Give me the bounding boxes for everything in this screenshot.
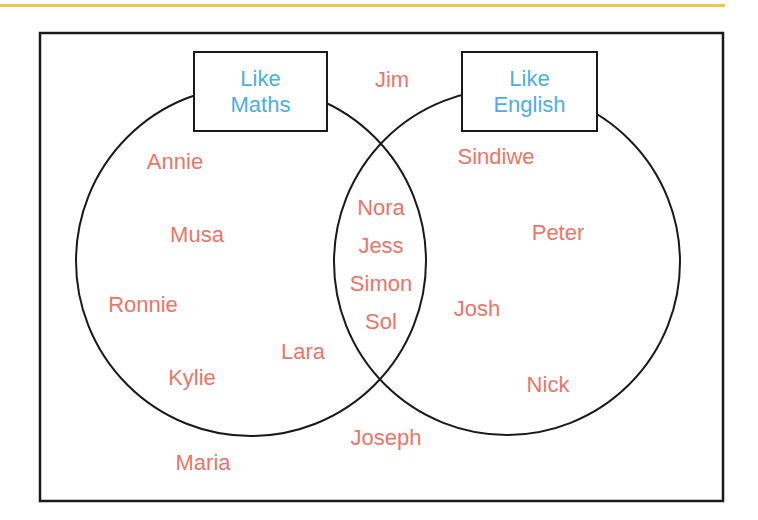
name-both: Nora bbox=[357, 196, 405, 220]
english-set-label: Like English bbox=[461, 51, 598, 132]
name-english-only: Peter bbox=[532, 221, 585, 245]
name-maths-only: Kylie bbox=[168, 366, 216, 390]
name-maths-only: Ronnie bbox=[108, 293, 178, 317]
name-both: Jess bbox=[358, 234, 403, 258]
maths-set-label: Like Maths bbox=[193, 51, 328, 132]
name-neither: Joseph bbox=[351, 426, 422, 450]
name-maths-only: Annie bbox=[147, 150, 203, 174]
english-circle bbox=[334, 89, 680, 435]
english-label-line2: English bbox=[493, 92, 565, 118]
maths-circle bbox=[76, 86, 426, 436]
name-maths-only: Musa bbox=[170, 223, 224, 247]
name-maths-only: Lara bbox=[281, 340, 325, 364]
name-english-only: Nick bbox=[527, 373, 570, 397]
name-english-only: Josh bbox=[454, 297, 500, 321]
english-label-line1: Like bbox=[509, 66, 549, 92]
name-neither: Jim bbox=[375, 68, 409, 92]
maths-label-line1: Like bbox=[240, 66, 280, 92]
name-english-only: Sindiwe bbox=[457, 145, 534, 169]
maths-label-line2: Maths bbox=[231, 92, 291, 118]
name-both: Simon bbox=[350, 272, 412, 296]
name-neither: Maria bbox=[175, 451, 230, 475]
name-both: Sol bbox=[365, 310, 397, 334]
